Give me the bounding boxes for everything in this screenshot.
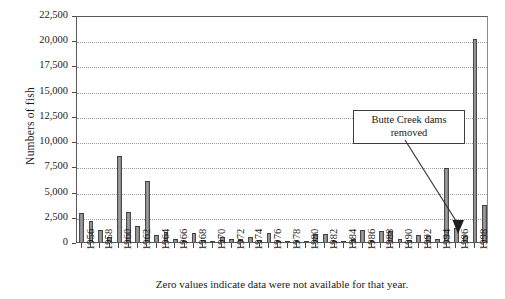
x-tick-mark: [81, 243, 82, 248]
gridline: [77, 168, 487, 169]
x-tick-mark: [465, 243, 466, 248]
x-tick-mark: [455, 243, 456, 248]
bar: [379, 231, 384, 242]
y-tick-mark: [72, 117, 76, 118]
y-tick-label: 22,500: [4, 9, 68, 20]
annotation-line-1: Butte Creek dams: [356, 114, 462, 127]
x-tick-mark: [408, 243, 409, 248]
bar: [210, 241, 215, 243]
y-tick-label: 20,000: [4, 34, 68, 45]
bar: [229, 239, 234, 242]
x-tick-mark: [277, 243, 278, 248]
x-tick-mark: [240, 243, 241, 248]
x-tick-mark: [483, 243, 484, 248]
y-tick-label: 12,500: [4, 110, 68, 121]
bar: [435, 239, 440, 242]
x-tick-mark: [137, 243, 138, 248]
y-tick-label: 17,500: [4, 59, 68, 70]
x-tick-mark: [371, 243, 372, 248]
y-tick-mark: [72, 193, 76, 194]
x-tick-mark: [174, 243, 175, 248]
bar: [398, 239, 403, 242]
x-tick-mark: [165, 243, 166, 248]
gridline: [77, 194, 487, 195]
bar: [473, 39, 478, 242]
y-tick-mark: [72, 167, 76, 168]
x-tick-mark: [212, 243, 213, 248]
x-tick-mark: [362, 243, 363, 248]
y-tick-label: 15,000: [4, 85, 68, 96]
x-tick-mark: [90, 243, 91, 248]
x-tick-mark: [315, 243, 316, 248]
chart-figure: Numbers of fish 02,5005,0007,50010,00012…: [0, 0, 505, 299]
x-tick-mark: [427, 243, 428, 248]
x-tick-mark: [231, 243, 232, 248]
x-tick-mark: [474, 243, 475, 248]
y-tick-label: 2,500: [4, 211, 68, 222]
x-tick-mark: [146, 243, 147, 248]
y-tick-mark: [72, 66, 76, 67]
bar: [416, 235, 421, 242]
y-tick-mark: [72, 243, 76, 244]
x-tick-mark: [390, 243, 391, 248]
x-tick-mark: [446, 243, 447, 248]
y-tick-label: 7,500: [4, 160, 68, 171]
y-tick-mark: [72, 16, 76, 17]
y-tick-mark: [72, 41, 76, 42]
x-tick-mark: [109, 243, 110, 248]
bar: [79, 213, 84, 242]
x-tick-mark: [305, 243, 306, 248]
bar: [117, 156, 122, 242]
x-tick-mark: [184, 243, 185, 248]
bar: [323, 234, 328, 242]
x-tick-mark: [334, 243, 335, 248]
gridline: [77, 42, 487, 43]
y-tick-label: 5,000: [4, 186, 68, 197]
y-tick-label: 10,000: [4, 135, 68, 146]
y-tick-mark: [72, 92, 76, 93]
y-tick-mark: [72, 142, 76, 143]
bar: [285, 241, 290, 242]
x-tick-mark: [118, 243, 119, 248]
bar: [192, 233, 197, 242]
x-tick-mark: [437, 243, 438, 248]
bar: [454, 228, 459, 242]
bar: [135, 226, 140, 242]
x-tick-mark: [202, 243, 203, 248]
gridline: [77, 219, 487, 220]
bar: [267, 233, 272, 242]
x-tick-mark: [249, 243, 250, 248]
gridline: [77, 67, 487, 68]
x-tick-mark: [193, 243, 194, 248]
x-tick-mark: [259, 243, 260, 248]
annotation-callout: Butte Creek dams removed: [353, 110, 465, 144]
x-tick-mark: [128, 243, 129, 248]
bar: [248, 237, 253, 242]
annotation-line-2: removed: [356, 127, 462, 140]
x-tick-mark: [99, 243, 100, 248]
x-tick-mark: [399, 243, 400, 248]
bar: [173, 239, 178, 242]
bar: [341, 241, 346, 242]
x-tick-mark: [296, 243, 297, 248]
x-tick-mark: [343, 243, 344, 248]
y-tick-mark: [72, 218, 76, 219]
bar: [360, 230, 365, 242]
x-tick-mark: [287, 243, 288, 248]
x-tick-mark: [324, 243, 325, 248]
x-tick-mark: [156, 243, 157, 248]
y-tick-label: 0: [4, 236, 68, 247]
x-axis-caption: Zero values indicate data were not avail…: [76, 278, 488, 290]
x-tick-mark: [221, 243, 222, 248]
x-tick-mark: [352, 243, 353, 248]
x-tick-mark: [268, 243, 269, 248]
bar: [154, 235, 159, 242]
gridline: [77, 93, 487, 94]
x-tick-mark: [418, 243, 419, 248]
x-tick-mark: [380, 243, 381, 248]
